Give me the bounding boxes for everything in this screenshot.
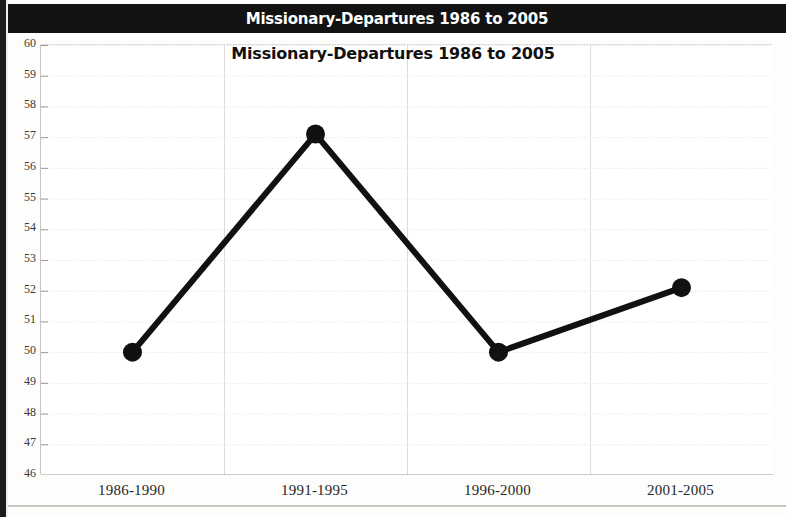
y-axis-tick-label: 55 [6, 190, 36, 205]
y-axis-tick-label: 51 [6, 312, 36, 327]
banner-title-bar: Missionary-Departures 1986 to 2005 [8, 4, 786, 33]
data-point-marker [123, 343, 142, 362]
data-point-marker [306, 125, 325, 144]
plot-area [40, 44, 772, 474]
y-axis-tick-label: 58 [6, 97, 36, 112]
data-point-marker [489, 343, 508, 362]
x-axis-tick-label: 2001-2005 [589, 482, 772, 499]
data-point-marker [672, 278, 691, 297]
y-axis-tick-label: 59 [6, 67, 36, 82]
y-axis-tick-label: 53 [6, 251, 36, 266]
y-axis-tick-label: 49 [6, 374, 36, 389]
y-axis-tick-label: 46 [6, 466, 36, 481]
y-axis-tick-label: 50 [6, 343, 36, 358]
y-axis-tick-label: 47 [6, 435, 36, 450]
y-axis-tick-label: 60 [6, 36, 36, 51]
y-axis-tick-label: 57 [6, 128, 36, 143]
y-axis-tick-label: 52 [6, 282, 36, 297]
chart-figure: Missionary-Departures 1986 to 2005 Missi… [0, 0, 786, 517]
y-axis-tick-label: 54 [6, 220, 36, 235]
y-axis-tick-label: 48 [6, 405, 36, 420]
x-axis-tick-label: 1986-1990 [40, 482, 223, 499]
line-chart-canvas [41, 45, 773, 475]
y-axis-tick-label: 56 [6, 159, 36, 174]
x-axis-tick-label: 1996-2000 [406, 482, 589, 499]
page-edge-bottom [8, 505, 786, 507]
x-axis-tick-label: 1991-1995 [223, 482, 406, 499]
banner-title-text: Missionary-Departures 1986 to 2005 [246, 10, 549, 28]
